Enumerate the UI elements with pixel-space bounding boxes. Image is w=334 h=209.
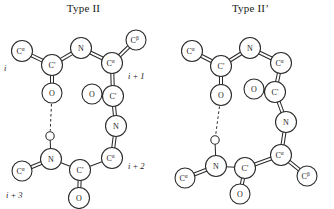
- atom-r-ca-i2: Cα: [271, 145, 292, 166]
- beta-turn-figure: Type II CαC'ONCαCβC'ONCαC'ONCα ii + 1i +…: [0, 0, 334, 209]
- atom-label: C': [110, 92, 117, 101]
- atom-r-cb-i2: Cβ: [297, 166, 317, 186]
- atom-l-n-i2: N: [106, 116, 127, 137]
- hbond-layer-type-2-prime: [216, 106, 220, 134]
- atom-label: O: [76, 194, 82, 203]
- bond: [226, 167, 235, 168]
- panel-title-type-2: Type II: [0, 2, 167, 14]
- atom-l-ca-i1: Cα: [102, 53, 123, 74]
- bond: [229, 52, 243, 62]
- atom-l-o-i1: O: [82, 84, 102, 104]
- atom-l-c-i: C': [42, 55, 63, 76]
- structure-type-2: CαC'ONCαCβC'ONCαC'ONCα ii + 1i + 2i + 3: [0, 18, 167, 209]
- atom-r-n-i3: N: [206, 156, 227, 177]
- atom-l-n-i3: N: [41, 149, 62, 170]
- atom-l-ca-i3: Cα: [12, 161, 32, 181]
- atom-r-o-i: O: [211, 85, 232, 106]
- hydrogen-bond: [216, 106, 220, 134]
- residue-index-label: i + 3: [6, 190, 23, 200]
- atom-l-ca-i: Cα: [12, 41, 33, 62]
- bond: [30, 54, 43, 62]
- atom-r-h-i3: [211, 136, 219, 144]
- atom-l-cb-i1: Cβ: [126, 30, 146, 50]
- panel-type-2-prime: Type II’ CαC'ONCαC'ONCαCβC'ONCα: [167, 0, 334, 209]
- hbond-layer-type-2: [50, 104, 51, 131]
- atom-label: N: [213, 162, 219, 171]
- atom-label: O: [237, 190, 243, 199]
- atom-r-ca-i1: Cα: [271, 53, 292, 74]
- hydrogen-bond: [50, 104, 51, 131]
- atom-l-n-i1: N: [71, 38, 92, 59]
- panel-title-type-2-prime: Type II’: [167, 2, 334, 14]
- atom-r-o-i2: O: [230, 184, 250, 204]
- bond: [51, 75, 54, 84]
- atom-l-ca-i2: Cα: [102, 148, 123, 169]
- bond: [258, 51, 272, 60]
- atom-r-n-i2: N: [276, 112, 297, 133]
- atom-label: O: [218, 91, 224, 100]
- atom-r-o-i1: O: [244, 79, 264, 99]
- panel-type-2: Type II CαC'ONCαCβC'ONCαC'ONCα ii + 1i +…: [0, 0, 167, 209]
- atom-r-ca-i: Cα: [182, 41, 203, 62]
- bond: [112, 136, 116, 149]
- atom-label: N: [283, 118, 289, 127]
- bond: [220, 76, 223, 85]
- atom-r-c-i2: C': [235, 158, 256, 179]
- bond: [30, 161, 42, 168]
- residue-index-label: i + 1: [128, 71, 145, 81]
- atom-layer-type-2-prime: CαC'ONCαC'ONCαCβC'ONCα: [175, 38, 317, 205]
- atom-label: O: [49, 89, 55, 98]
- bond: [60, 163, 70, 167]
- atom-r-c-i: C': [211, 56, 232, 77]
- atom-r-c-i1: C': [265, 82, 286, 103]
- bond: [111, 73, 114, 86]
- bond: [288, 160, 301, 171]
- structure-type-2-prime: CαC'ONCαC'ONCαCβC'ONCα: [167, 18, 334, 209]
- bond: [89, 162, 102, 167]
- atom-r-n-i1: N: [240, 38, 261, 59]
- bond: [78, 180, 81, 188]
- residue-index-label: i: [4, 63, 7, 73]
- atom-label: C': [242, 164, 249, 173]
- atom-label: C': [218, 62, 225, 71]
- atom-l-o-i: O: [42, 83, 62, 103]
- bond: [60, 52, 73, 61]
- bond: [254, 157, 272, 166]
- atom-l-h-i3: [46, 132, 54, 140]
- atom-label: N: [78, 44, 84, 53]
- atom-r-ca-i3: Cα: [175, 168, 195, 188]
- atom-label: O: [251, 85, 257, 94]
- atom-label: C': [49, 61, 56, 70]
- bond: [276, 72, 281, 82]
- atom-l-c-i1: C': [103, 86, 124, 107]
- bond: [200, 54, 213, 62]
- bond: [281, 132, 286, 146]
- residue-index-label: i + 2: [128, 161, 145, 171]
- atom-label: N: [48, 155, 54, 164]
- atom-label: C': [272, 88, 279, 97]
- bond: [113, 106, 117, 116]
- atom-label: N: [113, 122, 119, 131]
- bond: [89, 51, 103, 60]
- bond: [277, 101, 284, 113]
- atom-l-o-i2: O: [69, 188, 90, 209]
- atom-label: N: [247, 44, 253, 53]
- atom-l-c-i2: C': [70, 160, 91, 181]
- atom-label: C': [77, 166, 84, 175]
- atom-label: O: [89, 90, 95, 99]
- bond: [193, 168, 207, 176]
